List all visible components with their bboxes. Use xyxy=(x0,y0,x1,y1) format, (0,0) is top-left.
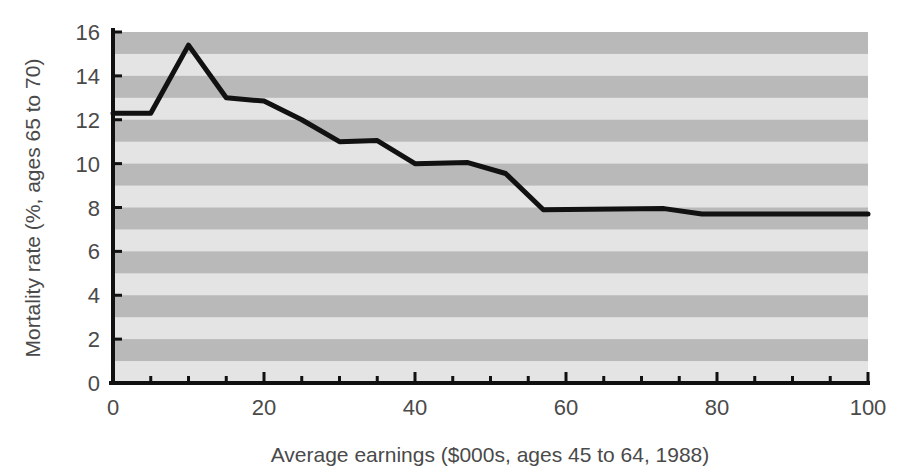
band-stripe-5 xyxy=(113,120,868,142)
x-tick-label: 20 xyxy=(252,395,276,420)
x-tick-label: 100 xyxy=(850,395,887,420)
y-tick-label: 6 xyxy=(88,239,100,264)
chart-figure: 0246810121416 020406080100 Average earni… xyxy=(0,0,901,473)
x-tick-label: 40 xyxy=(403,395,427,420)
plot-banding xyxy=(113,32,868,383)
y-axis-title: Mortality rate (%, ages 65 to 70) xyxy=(21,59,44,358)
x-tick-label: 60 xyxy=(554,395,578,420)
band-stripe-0 xyxy=(113,339,868,361)
band-stripe-2 xyxy=(113,251,868,273)
y-tick-label: 16 xyxy=(76,20,100,45)
y-tick-label: 8 xyxy=(88,196,100,221)
y-tick-label: 4 xyxy=(88,283,100,308)
y-tick-label: 2 xyxy=(88,327,100,352)
y-tick-label: 0 xyxy=(88,371,100,396)
x-tick-label: 80 xyxy=(705,395,729,420)
band-stripe-1 xyxy=(113,295,868,317)
y-tick-label: 14 xyxy=(76,64,100,89)
band-stripe-3 xyxy=(113,208,868,230)
y-tick-label: 10 xyxy=(76,152,100,177)
x-tick-label: 0 xyxy=(107,395,119,420)
mortality-vs-earnings-line-chart: 0246810121416 020406080100 Average earni… xyxy=(0,0,901,473)
band-stripe-7 xyxy=(113,32,868,54)
x-axis-title: Average earnings ($000s, ages 45 to 64, … xyxy=(271,443,710,466)
y-tick-label: 12 xyxy=(76,108,100,133)
